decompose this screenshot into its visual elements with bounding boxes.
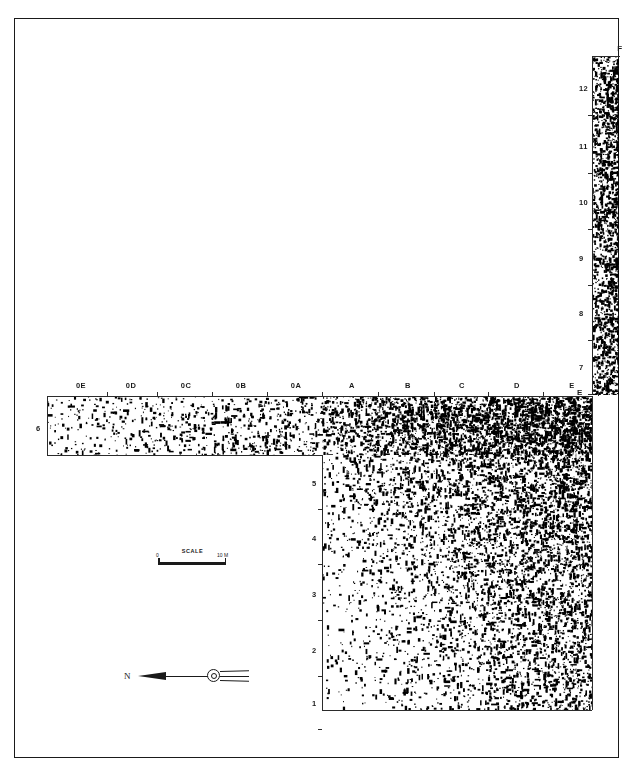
- grid-column-label-0C: 0C: [181, 381, 191, 390]
- grid-tick-f-row-4: [588, 340, 592, 341]
- grid-row-label-5: 5: [312, 479, 317, 488]
- grid-column-label-F: F: [617, 44, 622, 53]
- site-plan-page: 0E0D0C0B0AABCDEF654321121110987E SCALE 0…: [0, 0, 633, 776]
- grid-row-label-12: 12: [579, 84, 588, 93]
- grid-row-label-10: 10: [579, 198, 588, 207]
- grid-tick-f-row-0: [588, 115, 592, 116]
- north-arrow-head-icon: [138, 672, 166, 680]
- trench-top-edge: [47, 396, 592, 397]
- north-arrow-fletch-upper: [220, 670, 249, 672]
- north-arrow-ring-inner-icon: [211, 673, 217, 679]
- grid-column-label-E: E: [569, 381, 574, 390]
- grid-row-label-6: 6: [36, 424, 41, 433]
- grid-row-label-11: 11: [579, 142, 588, 151]
- grid-column-label-D: D: [514, 381, 520, 390]
- grid-tick-f-row-1: [588, 173, 592, 174]
- grid-row-label-2: 2: [312, 646, 317, 655]
- north-arrow-fletch-middle: [220, 676, 249, 677]
- grid-row-label-9: 9: [579, 254, 584, 263]
- excavation-area-main-block: [322, 396, 592, 710]
- f-column-top-edge: [592, 56, 620, 57]
- grid-tick-column-2: [212, 392, 213, 396]
- grid-row-label-7: 7: [579, 363, 584, 372]
- grid-tick-row-2: [318, 620, 322, 621]
- north-arrow-fletch-lower: [220, 680, 249, 682]
- grid-tick-f-row-3: [588, 285, 592, 286]
- main-block-right-edge: [592, 396, 593, 710]
- grid-tick-row-3: [318, 676, 322, 677]
- grid-corner-label-E: E: [577, 388, 583, 397]
- grid-tick-row-0: [318, 509, 322, 510]
- grid-column-label-0D: 0D: [126, 381, 136, 390]
- north-arrow-label: N: [124, 671, 131, 681]
- grid-tick-f-row-5: [588, 394, 592, 395]
- scale-bar-max-label: 10 M: [217, 552, 228, 558]
- grid-tick-f-row-2: [588, 229, 592, 230]
- grid-tick-column-9: [598, 392, 599, 396]
- grid-row-label-1: 1: [312, 699, 317, 708]
- grid-row-label-8: 8: [579, 309, 584, 318]
- north-arrow: N: [124, 664, 249, 690]
- excavation-area-f-column: [592, 56, 619, 395]
- grid-row-label-4: 4: [312, 534, 317, 543]
- grid-tick-column-8: [543, 392, 544, 396]
- main-block-left-edge: [322, 455, 323, 710]
- trench-left-edge: [47, 396, 48, 455]
- grid-tick-row-4: [318, 729, 322, 730]
- grid-tick-column-7: [488, 392, 489, 396]
- grid-column-label-0B: 0B: [236, 381, 246, 390]
- grid-tick-column-5: [378, 392, 379, 396]
- scale-bar-title: SCALE: [182, 548, 204, 554]
- scale-bar-rule: [158, 562, 226, 565]
- grid-column-label-C: C: [459, 381, 465, 390]
- scale-bar-right-cap: [225, 558, 227, 565]
- f-column-left-edge: [592, 56, 593, 395]
- grid-tick-row-1: [318, 564, 322, 565]
- grid-tick-column-1: [157, 392, 158, 396]
- grid-column-label-A: A: [349, 381, 355, 390]
- trench-bottom-edge: [47, 455, 323, 456]
- grid-column-label-0E: 0E: [76, 381, 86, 390]
- main-block-bottom-edge: [322, 710, 592, 711]
- grid-tick-column-4: [322, 392, 323, 396]
- scale-bar: SCALE 0 10 M: [155, 548, 230, 572]
- grid-row-label-3: 3: [312, 590, 317, 599]
- grid-column-label-B: B: [405, 381, 411, 390]
- grid-column-label-0A: 0A: [291, 381, 301, 390]
- grid-tick-column-0: [107, 392, 108, 396]
- grid-tick-column-6: [434, 392, 435, 396]
- grid-tick-column-3: [267, 392, 268, 396]
